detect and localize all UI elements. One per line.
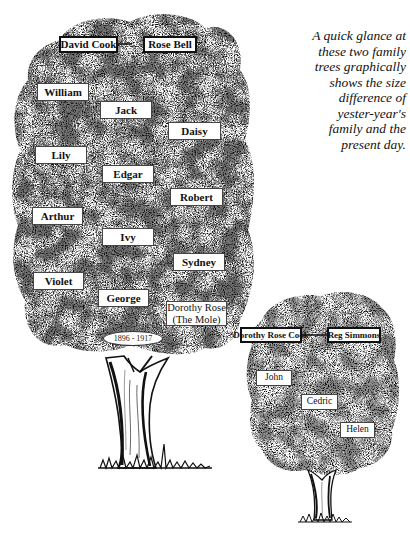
child-name-line: Dorothy Rose <box>167 302 226 313</box>
child-john: John <box>256 370 292 386</box>
large-tree-trunk <box>98 356 212 468</box>
child-jack: Jack <box>100 101 152 119</box>
child-lily: Lily <box>35 146 87 164</box>
child-robert: Robert <box>170 188 223 206</box>
child-sydney: Sydney <box>173 253 225 271</box>
lifespan-dates: 1896 - 1917 <box>103 331 163 346</box>
family-tree-illustration: A quick glance at these two family trees… <box>0 0 410 541</box>
parent-reg-simmons: Reg Simmons <box>327 327 381 343</box>
child-dorothy-rose: Dorothy Rose (The Mole) <box>166 301 227 326</box>
caption-line: present day. <box>246 137 406 153</box>
parent-david-cook: David Cook <box>59 36 118 53</box>
caption-line: trees graphically <box>246 59 406 75</box>
child-george: George <box>98 289 149 307</box>
child-ivy: Ivy <box>102 228 154 246</box>
caption-line: shows the size <box>246 75 406 91</box>
caption-line: difference of <box>246 90 406 106</box>
child-daisy: Daisy <box>168 122 221 140</box>
small-tree-trunk <box>298 470 352 522</box>
child-helen: Helen <box>340 422 375 438</box>
caption-line: these two family <box>246 44 406 60</box>
child-nickname: (The Mole) <box>172 314 220 325</box>
parent-dorothy-rose-cook: Dorothy Rose Cook <box>240 327 302 343</box>
caption-line: yester-year's <box>246 106 406 122</box>
child-edgar: Edgar <box>102 165 154 183</box>
caption-line: A quick glance at <box>246 28 406 44</box>
parent-rose-bell: Rose Bell <box>143 36 197 53</box>
child-cedric: Cedric <box>301 394 338 410</box>
caption-text: A quick glance at these two family trees… <box>246 28 406 152</box>
child-william: William <box>37 83 89 101</box>
child-arthur: Arthur <box>32 207 83 225</box>
child-violet: Violet <box>33 272 84 290</box>
caption-line: family and the <box>246 121 406 137</box>
